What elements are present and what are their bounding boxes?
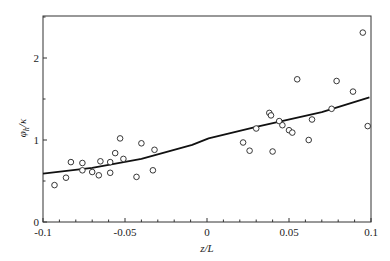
data-point: [152, 147, 158, 153]
x-tick-label: -0.05: [114, 226, 137, 238]
data-point: [350, 89, 356, 95]
chart: -0.1-0.0500.050.1 012 z/L φh/κ: [0, 0, 390, 261]
data-point: [52, 182, 58, 188]
x-axis-ticks: -0.1-0.0500.050.1: [34, 218, 378, 238]
x-tick-label: 0.05: [279, 226, 299, 238]
data-point: [98, 159, 104, 165]
plot-frame: [43, 16, 371, 222]
data-point: [268, 113, 274, 119]
y-axis-label: φh/κ: [16, 118, 31, 137]
data-point: [247, 148, 253, 154]
data-point: [360, 30, 366, 36]
data-point: [89, 169, 95, 175]
x-axis-label: z/L: [199, 242, 213, 254]
data-point: [80, 160, 86, 166]
data-points: [52, 30, 371, 188]
data-point: [309, 117, 315, 123]
y-tick-label: 0: [34, 216, 40, 228]
fit-curve: [43, 97, 369, 173]
y-axis-ticks: 012: [34, 17, 48, 228]
data-point: [107, 159, 113, 165]
data-point: [68, 159, 74, 165]
data-point: [117, 136, 123, 142]
data-point: [121, 156, 127, 162]
y-label-tail: /κ: [16, 118, 28, 128]
data-point: [306, 137, 312, 143]
data-point: [139, 141, 145, 147]
data-point: [96, 173, 102, 179]
x-tick-label: 0: [204, 226, 210, 238]
data-point: [290, 130, 296, 136]
y-tick-label: 2: [34, 52, 40, 64]
svg-text:φh/κ: φh/κ: [16, 118, 31, 137]
data-point: [112, 150, 118, 156]
data-point: [150, 168, 156, 174]
data-point: [365, 123, 371, 129]
data-point: [329, 106, 335, 112]
data-point: [107, 170, 113, 176]
x-tick-label: 0.1: [364, 226, 378, 238]
data-point: [240, 140, 246, 146]
data-point: [253, 126, 259, 132]
data-point: [270, 149, 276, 155]
data-point: [63, 175, 69, 181]
data-point: [294, 77, 300, 83]
data-point: [134, 174, 140, 180]
y-tick-label: 1: [34, 134, 40, 146]
data-point: [280, 122, 286, 128]
data-point: [334, 78, 340, 84]
data-point: [80, 168, 86, 174]
